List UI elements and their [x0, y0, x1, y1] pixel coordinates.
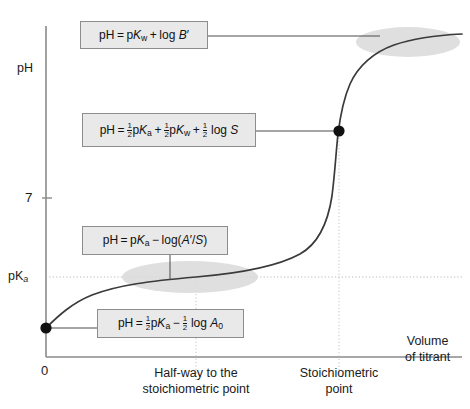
x-tick-stoich-line2: point [282, 382, 396, 398]
y-tick-label-7: 7 [25, 190, 33, 206]
x-axis-label-line1: Volume [405, 334, 450, 350]
callout-stoichiometric-point: pH=12pKa+12pKw+12 log S [82, 113, 256, 147]
formula-stoichiometric-point: pH=12pKa+12pKw+12 log S [100, 122, 239, 139]
x-tick-halfway-line2: stoichiometric point [120, 382, 272, 398]
x-tick-label-stoichiometric: Stoichiometric point [282, 366, 396, 397]
callout-excess-base: pH=pKw+log B′ [80, 21, 208, 49]
titration-curve-figure: pH 7 pKa Volume of titrant 0 Half-way to… [0, 0, 470, 409]
x-axis-label-line2: of titrant [405, 350, 450, 366]
initial-point-marker [40, 322, 51, 333]
x-tick-label-zero: 0 [41, 364, 48, 379]
callout-initial-point: pH=12pKa−12 log A0 [97, 309, 244, 338]
pka-label-text: pK [8, 269, 23, 283]
formula-initial-point: pH=12pKa−12 log A0 [118, 315, 223, 332]
x-axis-label: Volume of titrant [405, 334, 450, 365]
formula-excess-base: pH=pKw+log B′ [99, 28, 189, 43]
x-tick-halfway-line1: Half-way to the [120, 366, 272, 382]
x-tick-label-halfway: Half-way to the stoichiometric point [120, 366, 272, 397]
excess-base-highlight [356, 27, 460, 57]
callout-buffer-region: pH=pKa−log(A′/S) [82, 226, 228, 255]
pka-label-subscript: a [23, 274, 28, 284]
y-tick-label-pka: pKa [8, 269, 28, 284]
y-axis-label: pH [17, 61, 33, 75]
stoichiometric-point-marker [333, 125, 344, 136]
x-tick-stoich-line1: Stoichiometric [282, 366, 396, 382]
titration-curve [46, 34, 462, 328]
plot-area [0, 0, 470, 409]
formula-buffer-region: pH=pKa−log(A′/S) [103, 233, 208, 248]
